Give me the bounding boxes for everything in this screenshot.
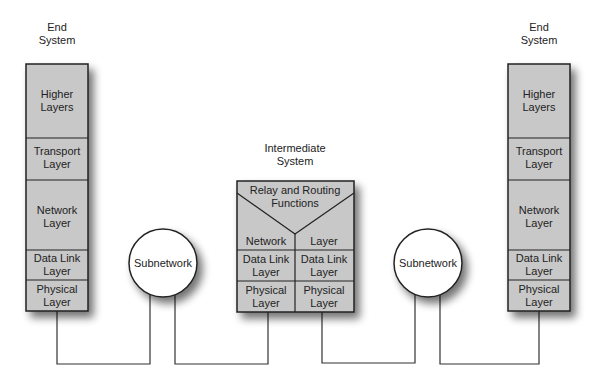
subnetwork-right-label: Subnetwork [399, 257, 457, 270]
right-transport-layer: Transport Layer [516, 145, 563, 171]
left-end-system-title: End System [39, 21, 76, 47]
right-network-layer: Network Layer [519, 204, 559, 230]
layer-text: Layer [246, 297, 287, 310]
title-line: End [39, 21, 76, 34]
left-transport-layer: Transport Layer [34, 145, 81, 171]
intermediate-data-link-right: Data Link Layer [301, 253, 347, 279]
intermediate-data-link-left: Data Link Layer [243, 253, 289, 279]
title-line: System [264, 155, 325, 168]
right-physical-layer: Physical Layer [519, 283, 560, 309]
intermediate-system-title: Intermediate System [264, 142, 325, 168]
relay-text: Relay and Routing [250, 184, 341, 197]
left-physical-layer: Physical Layer [37, 283, 78, 309]
title-line: End [521, 21, 558, 34]
layer-text: Physical [37, 283, 78, 296]
layer-text: Layer [516, 265, 562, 278]
layer-text: Higher [522, 88, 555, 101]
intermediate-network-left: Network [246, 235, 286, 248]
left-network-layer: Network Layer [37, 204, 77, 230]
intermediate-physical-right: Physical Layer [304, 284, 345, 310]
layer-text: Network [37, 204, 77, 217]
layer-text: Layers [40, 101, 73, 114]
layer-text: Data Link [34, 252, 80, 265]
right-higher-layers: Higher Layers [522, 88, 555, 114]
layer-text: Layer [34, 265, 80, 278]
relay-text: Functions [250, 197, 341, 210]
intermediate-physical-left: Physical Layer [246, 284, 287, 310]
layer-text: Higher [40, 88, 73, 101]
layer-text: Layer [37, 217, 77, 230]
title-line: System [521, 34, 558, 47]
layer-text: Physical [519, 283, 560, 296]
layer-text: Layer [34, 158, 81, 171]
right-end-system-title: End System [521, 21, 558, 47]
layer-text: Transport [516, 145, 563, 158]
layer-text: Layer [519, 217, 559, 230]
layer-text: Data Link [516, 252, 562, 265]
right-data-link-layer: Data Link Layer [516, 252, 562, 278]
layer-text: Transport [34, 145, 81, 158]
layer-text: Network [519, 204, 559, 217]
relay-routing-functions: Relay and Routing Functions [250, 184, 341, 210]
layer-text: Layers [522, 101, 555, 114]
layer-text: Physical [246, 284, 287, 297]
layer-text: Layer [243, 266, 289, 279]
layer-text: Layer [304, 297, 345, 310]
title-line: System [39, 34, 76, 47]
layer-text: Data Link [243, 253, 289, 266]
intermediate-network-right: Layer [310, 235, 338, 248]
layer-text: Data Link [301, 253, 347, 266]
layer-text: Layer [516, 158, 563, 171]
subnetwork-left-label: Subnetwork [134, 257, 192, 270]
left-data-link-layer: Data Link Layer [34, 252, 80, 278]
layer-text: Physical [304, 284, 345, 297]
title-line: Intermediate [264, 142, 325, 155]
layer-text: Layer [301, 266, 347, 279]
layer-text: Layer [519, 296, 560, 309]
layer-text: Layer [37, 296, 78, 309]
left-higher-layers: Higher Layers [40, 88, 73, 114]
